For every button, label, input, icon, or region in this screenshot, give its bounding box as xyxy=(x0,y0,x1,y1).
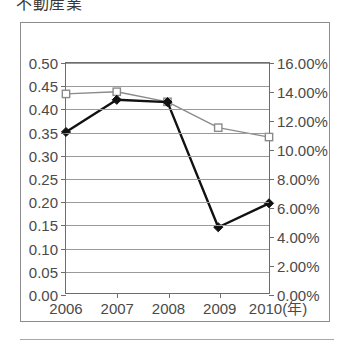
data-point-square-series-2007 xyxy=(113,88,120,95)
gridline xyxy=(66,63,269,64)
y-axis-label-left: 0.20 xyxy=(29,195,58,210)
chart-title: 不動産業 xyxy=(16,0,82,13)
y-axis-label-right: 14.00% xyxy=(277,85,328,100)
gridline xyxy=(66,86,269,87)
x-axis-label: 2010(年) xyxy=(249,301,307,317)
x-axis-label: 2009 xyxy=(203,301,236,317)
gridline xyxy=(66,225,269,226)
gridline xyxy=(66,156,269,157)
y-axis-label-left: 0.45 xyxy=(29,79,58,94)
y-axis-label-right: 10.00% xyxy=(277,143,328,158)
y-axis-label-left: 0.40 xyxy=(29,102,58,117)
y-axis-label-left: 0.15 xyxy=(29,218,58,233)
data-point-square-series-2010 xyxy=(265,133,272,140)
y-axis-tick-right xyxy=(269,63,274,64)
y-axis-tick-left xyxy=(61,272,66,273)
gridline xyxy=(66,272,269,273)
y-axis-tick-right xyxy=(269,237,274,238)
y-axis-tick-left xyxy=(61,63,66,64)
y-axis-tick-right xyxy=(269,266,274,267)
y-axis-tick-right xyxy=(269,150,274,151)
series-line-diamond-series xyxy=(66,100,269,227)
y-axis-label-left: 0.35 xyxy=(29,125,58,140)
x-axis-tick xyxy=(220,293,221,298)
chart-figure: 不動産業 0.000.050.100.150.200.250.300.350.4… xyxy=(0,0,346,351)
y-axis-label-left: 0.30 xyxy=(29,148,58,163)
y-axis-label-left: 0.10 xyxy=(29,241,58,256)
y-axis-label-right: 2.00% xyxy=(277,259,320,274)
x-axis-tick xyxy=(169,293,170,298)
y-axis-tick-left xyxy=(61,295,66,296)
x-axis-label: 2007 xyxy=(101,301,134,317)
y-axis-label-left: 0.05 xyxy=(29,264,58,279)
y-axis-tick-right xyxy=(269,208,274,209)
gridline xyxy=(66,249,269,250)
y-axis-label-right: 8.00% xyxy=(277,172,320,187)
y-axis-tick-right xyxy=(269,121,274,122)
y-axis-tick-left xyxy=(61,249,66,250)
y-axis-label-right: 12.00% xyxy=(277,114,328,129)
y-axis-label-right: 4.00% xyxy=(277,230,320,245)
gridline xyxy=(66,133,269,134)
y-axis-tick-right xyxy=(269,295,274,296)
y-axis-label-left: 0.25 xyxy=(29,172,58,187)
gridline xyxy=(66,109,269,110)
data-point-square-series-2009 xyxy=(215,124,222,131)
gridline xyxy=(66,202,269,203)
y-axis-tick-left xyxy=(61,202,66,203)
y-axis-tick-left xyxy=(61,179,66,180)
data-point-square-series-2006 xyxy=(62,90,69,97)
gridline xyxy=(66,179,269,180)
y-axis-tick-left xyxy=(61,225,66,226)
bottom-divider xyxy=(20,339,334,340)
y-axis-tick-right xyxy=(269,92,274,93)
y-axis-label-left: 0.50 xyxy=(29,56,58,71)
x-axis-label: 2006 xyxy=(49,301,82,317)
y-axis-tick-left xyxy=(61,156,66,157)
data-series-layer xyxy=(66,63,269,293)
x-axis-tick xyxy=(117,293,118,298)
y-axis-tick-left xyxy=(61,109,66,110)
data-point-diamond-series-2009 xyxy=(214,223,223,232)
y-axis-label-right: 16.00% xyxy=(277,56,328,71)
y-axis-tick-left xyxy=(61,133,66,134)
y-axis-tick-right xyxy=(269,179,274,180)
x-axis-label: 2008 xyxy=(152,301,185,317)
y-axis-tick-left xyxy=(61,86,66,87)
plot-area: 0.000.050.100.150.200.250.300.350.400.45… xyxy=(65,62,270,294)
y-axis-label-right: 6.00% xyxy=(277,201,320,216)
